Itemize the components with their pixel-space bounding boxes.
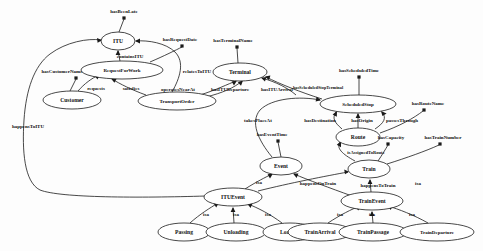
dot-hastrainnumber [438,142,441,145]
arrowhead-has-destination [333,111,337,117]
relation-label-rel-happenstoitu: happensToITU [12,124,44,129]
attr-line-has-been-late [119,19,124,32]
edge-satisfies [112,79,146,95]
attr-line-has-capacity [378,145,388,161]
attr-line-has-event-time [278,142,281,157]
edge-takes-place-at [256,98,320,157]
dot-hasbeenlate [122,16,125,19]
relation-label-rel-containsitu: containsITU [117,54,144,59]
entity-ellipse-customer [43,91,101,109]
relation-label-rel-hasdestination: hasDestination [304,118,336,123]
arrowhead-isa-trainpassage [370,211,375,216]
edge-isa-loading [248,204,282,223]
entity-ellipse-trainpassage [339,223,407,241]
attr-line-has-train-number [387,145,439,164]
dot-haseventtime [276,139,279,142]
entity-ellipse-trainevent [341,192,403,210]
entity-node-scheduledstop[interactable]: ScheduledStop [320,95,396,113]
relation-label-rel-happensontrain: happensOnTrain [300,181,337,186]
relation-label-rel-hasterminalname: hasTerminalName [213,38,253,43]
entity-ellipse-traindeparture [400,223,474,241]
entity-ellipse-requestforwork [81,61,163,79]
edge-requests [78,75,99,91]
relation-label-rel-hasorigin: hasOrigin [351,118,373,123]
entity-ellipse-itu [101,32,135,50]
entity-node-unloading[interactable]: Unloading [206,223,266,241]
relation-label-layer: hasBeenLatehasRequestDatehasTerminalName… [12,9,462,217]
entity-ellipse-train [348,160,390,178]
dot-hasroutename [422,108,425,111]
entity-ellipse-unloading [206,223,266,241]
relation-label-rel-hasrequestdate: hasRequestDate [163,37,198,42]
entity-ellipse-terminal [213,63,267,81]
relation-label-rel-isa-unloading: isa [233,212,239,217]
arrowhead-happens-to-train [368,179,373,184]
dot-hasscheduledtime [357,75,360,78]
edge-isa-passing [190,203,218,223]
dot-hascapacity [386,142,389,145]
edge-has-itu-arrival [262,78,296,95]
relation-label-rel-hastrainnumber: hasTrainNumber [425,135,463,140]
relation-label-rel-hasroutename: hasRouteName [412,101,445,106]
relation-label-rel-operatesnearat: operatesNearAt [161,87,195,92]
relation-label-rel-isassignedtoroute: isAssignedToRoute [347,150,384,155]
entity-ellipse-transportorder [138,92,216,110]
arrowhead-has-origin [356,113,361,118]
entity-ellipse-route [336,128,380,146]
relation-label-rel-hascustomername: hasCustomerName [42,69,84,74]
edge-isa-traindeparture [388,206,428,223]
entity-ellipse-event [260,157,302,175]
relation-label-rel-haseventtime: hasEventTime [257,132,289,137]
diagram-canvas: ITURequestForWorkTerminalCustomerTranspo… [0,0,483,251]
entity-node-trainpassage[interactable]: TrainPassage [339,223,407,241]
entity-node-transportorder[interactable]: TransportOrder [138,92,216,110]
relation-label-rel-happenstotrain: happensToTrain [360,183,395,188]
attr-line-has-route-name [380,111,423,133]
entity-node-event[interactable]: Event [260,157,302,175]
relation-label-rel-hasscheduledtime: hasScheduledTime [339,68,380,73]
dot-hasterminalname [235,45,238,48]
edge-isa-ituevent-event [245,174,272,189]
entity-node-terminal[interactable]: Terminal [213,63,267,81]
relation-label-rel-passesthrough: passesThrough [386,118,418,123]
entity-node-route[interactable]: Route [336,128,380,146]
relation-label-rel-takesplaceat: takesPlaceAt [244,118,272,123]
entity-node-requestforwork[interactable]: RequestForWork [81,61,163,79]
entity-ellipse-scheduledstop [320,95,396,113]
entity-node-itu[interactable]: ITU [101,32,135,50]
ontology-graph-svg: ITURequestForWorkTerminalCustomerTranspo… [0,0,483,251]
dot-hasrequestdate [180,44,183,47]
relation-label-rel-hascapacity: hasCapacity [378,135,405,140]
arrowhead-contains-itu [116,50,121,55]
edge-isa-trainevent-event [294,174,352,196]
relation-label-rel-isa-train-trainevent: isa [415,181,421,186]
arrowhead-relates-to-itu [135,39,140,44]
dot-hascustomername [74,76,77,79]
attr-line-has-customer-name [70,79,76,91]
entity-node-passing[interactable]: Passing [158,223,210,241]
edge-has-itu-departure [206,81,242,97]
attr-line-has-terminal-name [237,48,238,63]
arrowhead-isa-unloading [231,207,236,212]
relation-label-rel-hasbeenlate: hasBeenLate [110,9,138,14]
entity-node-customer[interactable]: Customer [43,91,101,109]
entity-ellipse-ituevent [204,188,262,206]
relation-label-rel-relatestoitu: relatesToITU [183,69,212,74]
edge-has-scheduled-stop-terminal [266,77,322,99]
entity-node-train[interactable]: Train [348,160,390,178]
relation-label-rel-requests: requests [87,86,105,91]
entity-node-ituevent[interactable]: ITUEvent [204,188,262,206]
relation-label-rel-hasscheduledstopterminal: hasScheduledStopTerminal [293,85,344,90]
entity-ellipse-passing [158,223,210,241]
entity-node-trainevent[interactable]: TrainEvent [341,192,403,210]
entity-node-traindeparture[interactable]: TrainDeparture [400,223,474,241]
